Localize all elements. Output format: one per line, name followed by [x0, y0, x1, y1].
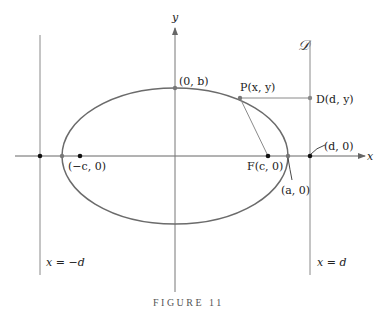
label-point-p: P(x, y)	[240, 81, 275, 94]
point-a-zero	[286, 154, 290, 158]
point-neg-d	[38, 154, 43, 159]
label-right-directrix: x = d	[317, 256, 346, 269]
point-neg-c	[78, 154, 83, 159]
figure-caption: FIGURE 11	[153, 297, 224, 308]
label-left-directrix: x = −d	[46, 256, 85, 269]
label-top-vertex: (0, b)	[179, 75, 209, 88]
point-p	[238, 96, 242, 100]
point-focus	[266, 154, 271, 159]
point-left-vertex	[60, 154, 64, 158]
y-axis-label: y	[171, 11, 179, 24]
point-d-zero	[308, 154, 313, 159]
point-d	[308, 96, 312, 100]
x-axis-label: x	[367, 150, 374, 163]
d-zero-pointer	[311, 145, 325, 154]
point-top-vertex	[173, 86, 177, 90]
ellipse-directrix-diagram: x y 𝒟 (0, b) P(x, y) D(d, y) (d, 0) (−c,…	[0, 0, 377, 309]
label-focus: F(c, 0)	[247, 160, 283, 173]
label-point-d: D(d, y)	[316, 93, 354, 106]
label-d-zero: (d, 0)	[324, 140, 354, 153]
a-zero-pointer	[288, 158, 292, 180]
label-a-zero: (a, 0)	[281, 184, 310, 197]
label-neg-c: (−c, 0)	[68, 160, 106, 173]
